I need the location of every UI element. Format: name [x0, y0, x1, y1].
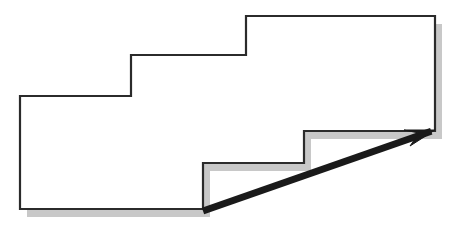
staircase-diagram-svg: Staircase polygon with diagonal arrow	[0, 0, 462, 233]
figure-canvas: Staircase polygon with diagonal arrow	[0, 0, 462, 233]
